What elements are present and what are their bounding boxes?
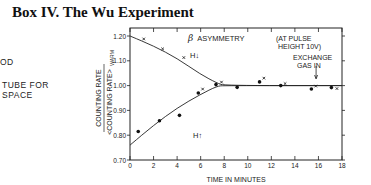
- y-axis-label: COUNTING RATE <COUNTING RATE> WARM: [95, 50, 115, 135]
- svg-text:<COUNTING RATE>: <COUNTING RATE>: [106, 69, 113, 135]
- y-axis: 0.700.800.901.001.101.20: [113, 33, 345, 164]
- svg-text:WARM: WARM: [109, 50, 115, 66]
- x-axis-label: TIME IN MINUTES: [206, 176, 265, 183]
- x-tick-label: 2: [152, 162, 156, 169]
- data-point-dot: [330, 86, 334, 90]
- x-tick-label: 0: [128, 162, 132, 169]
- h-up-label: H↑: [193, 131, 202, 140]
- fit-curve: [130, 86, 342, 146]
- data-point-dot: [197, 91, 201, 95]
- x-tick-label: 8: [222, 162, 226, 169]
- exchange-gas-label: EXCHANGE: [293, 54, 333, 61]
- x-tick-label: 14: [291, 162, 299, 169]
- data-point-x: [336, 87, 339, 90]
- x-tick-label: 16: [315, 162, 323, 169]
- data-point-x: [263, 77, 266, 80]
- data-point-x: [183, 56, 186, 59]
- svg-text:COUNTING RATE: COUNTING RATE: [95, 69, 102, 127]
- data-point-x: [284, 82, 287, 85]
- chart-title: βASYMMETRY: [187, 33, 245, 43]
- data-point-dot: [214, 83, 218, 87]
- data-point-dot: [158, 119, 162, 123]
- data-point-x: [161, 48, 164, 51]
- fit-curves: [130, 36, 342, 145]
- y-tick-label: 0.90: [113, 107, 126, 114]
- data-point-dot: [279, 84, 283, 88]
- data-point-dot: [136, 130, 140, 134]
- h-down-label: H↓: [190, 51, 199, 60]
- pulse-height-note-2: HEIGHT 10V): [278, 43, 321, 51]
- y-tick-label: 1.00: [113, 82, 126, 89]
- data-point-x: [142, 38, 145, 41]
- x-tick-label: 18: [338, 162, 346, 169]
- data-point-dot: [178, 114, 182, 118]
- y-tick-label: 1.10: [113, 57, 126, 64]
- wu-experiment-chart: 0.700.800.901.001.101.20 024681012141618…: [0, 0, 371, 185]
- data-point-x: [201, 88, 204, 91]
- x-tick-label: 6: [199, 162, 203, 169]
- exchange-gas-label-2: GAS IN: [297, 62, 321, 69]
- y-tick-label: 1.20: [113, 33, 126, 40]
- x-tick-label: 10: [244, 162, 252, 169]
- x-tick-label: 12: [268, 162, 276, 169]
- data-point-dot: [235, 86, 239, 90]
- pulse-height-note: (AT PULSE: [276, 35, 312, 43]
- data-point-x: [220, 81, 223, 84]
- data-point-dot: [310, 87, 314, 91]
- y-tick-label: 0.80: [113, 132, 126, 139]
- x-tick-label: 4: [175, 162, 179, 169]
- y-tick-label: 0.70: [113, 157, 126, 164]
- data-point-dot: [258, 80, 262, 84]
